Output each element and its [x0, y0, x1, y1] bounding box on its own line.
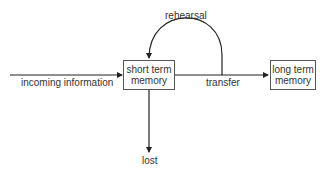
short-term-line2: memory: [131, 75, 167, 86]
transfer-label: transfer: [206, 77, 240, 88]
long-term-line2: memory: [275, 75, 311, 86]
lost-label: lost: [142, 155, 158, 166]
short-term-memory-box: short term memory: [123, 60, 175, 90]
long-term-memory-box: long term memory: [270, 60, 316, 90]
rehearsal-label: rehearsal: [165, 10, 207, 21]
short-term-line1: short term: [126, 64, 171, 75]
incoming-information-label: incoming information: [21, 77, 113, 88]
long-term-line1: long term: [272, 64, 314, 75]
